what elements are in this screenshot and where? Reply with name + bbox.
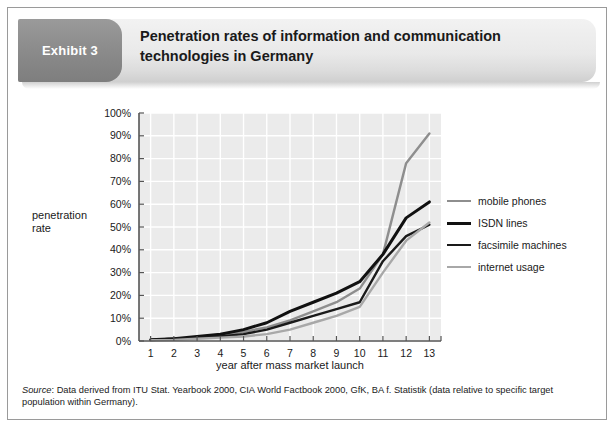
x-axis-tick-label: 4	[209, 347, 231, 359]
legend-label: ISDN lines	[478, 217, 528, 229]
y-axis-tick-label: 10%	[87, 313, 131, 324]
x-axis-tick-label: 1	[140, 347, 162, 359]
y-axis-tick-label: 20%	[87, 290, 131, 301]
x-axis-tick-label: 13	[418, 347, 440, 359]
y-axis-tick-label: 90%	[87, 130, 131, 141]
y-axis-tick-label: 80%	[87, 153, 131, 164]
legend-swatch	[447, 222, 471, 225]
y-axis-title-line-1: penetration	[32, 209, 106, 222]
x-axis-tick-label: 9	[325, 347, 347, 359]
source-note: Source: Data derived from ITU Stat. Year…	[22, 385, 592, 408]
y-axis-tick-label: 50%	[87, 222, 131, 233]
legend-swatch	[447, 266, 471, 268]
source-note-text: : Data derived from ITU Stat. Yearbook 2…	[22, 385, 553, 407]
exhibit-figure: Exhibit 3 Penetration rates of informati…	[0, 0, 615, 428]
y-axis-tick-label: 60%	[87, 199, 131, 210]
legend-label: facsimile machines	[478, 239, 567, 251]
x-axis-title: year after mass market launch	[139, 359, 441, 371]
y-axis-tick-label: 0%	[87, 336, 131, 347]
line-chart: penetration rate year after mass market …	[0, 0, 615, 428]
x-axis-tick-label: 7	[279, 347, 301, 359]
y-axis-tick-label: 30%	[87, 267, 131, 278]
y-axis-tick-label: 100%	[87, 108, 131, 119]
legend-item: facsimile machines	[447, 234, 607, 256]
legend-item: mobile phones	[447, 190, 607, 212]
y-axis-tick-label: 70%	[87, 176, 131, 187]
x-axis-tick-label: 10	[349, 347, 371, 359]
legend-swatch	[447, 200, 471, 202]
x-axis-tick-label: 3	[186, 347, 208, 359]
legend-label: mobile phones	[478, 195, 546, 207]
y-axis-tick-label: 40%	[87, 244, 131, 255]
legend-label: internet usage	[478, 261, 545, 273]
x-axis-tick-label: 8	[302, 347, 324, 359]
chart-legend: mobile phonesISDN linesfacsimile machine…	[447, 190, 607, 278]
x-axis-tick-label: 5	[233, 347, 255, 359]
legend-swatch	[447, 244, 471, 246]
x-axis-tick-label: 11	[372, 347, 394, 359]
legend-item: ISDN lines	[447, 212, 607, 234]
x-axis-tick-label: 6	[256, 347, 278, 359]
source-note-prefix: Source	[22, 385, 51, 395]
x-axis-tick-label: 12	[395, 347, 417, 359]
legend-item: internet usage	[447, 256, 607, 278]
x-axis-tick-label: 2	[163, 347, 185, 359]
